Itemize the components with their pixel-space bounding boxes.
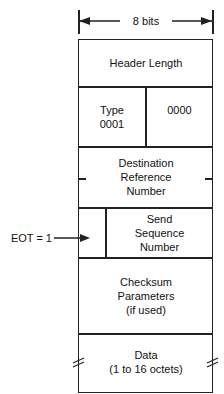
field-reserved: 0000 <box>146 87 213 132</box>
field-checksum-parameters: Checksum Parameters (if used) <box>79 258 213 333</box>
field-destination-reference: Destination Reference Number <box>79 147 213 207</box>
break-mark-left <box>72 354 86 370</box>
eot-label: EOT = 1 <box>0 230 52 246</box>
break-mark-right <box>206 354 220 370</box>
eot-arrow <box>52 232 92 244</box>
field-send-sequence: Send Sequence Number <box>106 208 213 257</box>
field-header-length: Header Length <box>79 40 213 86</box>
width-label: 8 bits <box>118 13 174 29</box>
field-data: Data (1 to 16 octets) <box>79 334 213 390</box>
field-type: Type 0001 <box>79 87 145 146</box>
